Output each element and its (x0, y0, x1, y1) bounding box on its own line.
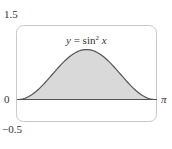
y-tick-label-top: 1.5 (4, 8, 18, 20)
chart-title: y = sin2 x (65, 34, 107, 46)
title-eq: = sin (71, 34, 96, 46)
y-tick-label-zero: 0 (4, 93, 10, 105)
title-x: x (99, 34, 107, 46)
area-under-curve (18, 50, 155, 100)
chart: 1.5 0 −0.5 π y = sin2 x (0, 0, 172, 149)
x-tick-label-pi: π (161, 93, 167, 105)
y-tick-label-bottom: −0.5 (2, 123, 22, 135)
